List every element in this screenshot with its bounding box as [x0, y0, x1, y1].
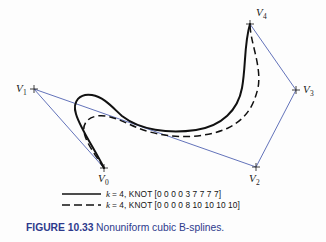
label-v0-subscript: 0 — [105, 178, 109, 187]
label-v3-subscript: 3 — [310, 89, 314, 98]
label-v2: V 2 — [249, 172, 260, 187]
label-v3: V 3 — [303, 83, 314, 98]
marker-v3 — [292, 86, 300, 94]
label-v0: V 0 — [98, 172, 109, 187]
label-v1-subscript: 1 — [23, 88, 27, 97]
legend-dashed-k-symbol: k — [106, 200, 111, 210]
dashed-spline-curve — [84, 24, 259, 168]
control-point-labels: V 0 V 1 V 2 V 3 V 4 — [16, 6, 314, 187]
control-point-markers — [30, 20, 300, 172]
polygon-edge-v0-v1 — [34, 89, 104, 168]
polygon-edge-v3-v4 — [250, 24, 296, 90]
legend: k = 4, KNOT [0 0 0 0 3 7 7 7 7] k = 4, K… — [62, 189, 240, 210]
legend-row-dashed: k = 4, KNOT [0 0 0 0 8 10 10 10 10] — [62, 200, 240, 210]
legend-dashed-label: = 4, KNOT [0 0 0 0 8 10 10 10 10] — [112, 200, 240, 210]
legend-row-solid: k = 4, KNOT [0 0 0 0 3 7 7 7 7] — [62, 189, 221, 199]
label-v4-subscript: 4 — [263, 12, 267, 21]
solid-spline-curve — [75, 24, 250, 168]
control-polygon — [34, 24, 296, 168]
figure-container: V 0 V 1 V 2 V 3 V 4 k — [0, 0, 326, 242]
label-v4: V 4 — [256, 6, 267, 21]
label-v1: V 1 — [16, 82, 27, 97]
polygon-edge-v2-v3 — [256, 90, 296, 167]
legend-solid-k-symbol: k — [106, 189, 111, 199]
marker-v2 — [252, 163, 260, 171]
caption-label: FIGURE 10.33 — [26, 222, 94, 233]
figure-caption: FIGURE 10.33 Nonuniform cubic B-splines. — [26, 222, 224, 233]
label-v2-subscript: 2 — [256, 178, 260, 187]
bspline-figure: V 0 V 1 V 2 V 3 V 4 k — [0, 0, 326, 242]
legend-solid-label: = 4, KNOT [0 0 0 0 3 7 7 7 7] — [112, 189, 221, 199]
caption-text: Nonuniform cubic B-splines. — [96, 222, 224, 233]
